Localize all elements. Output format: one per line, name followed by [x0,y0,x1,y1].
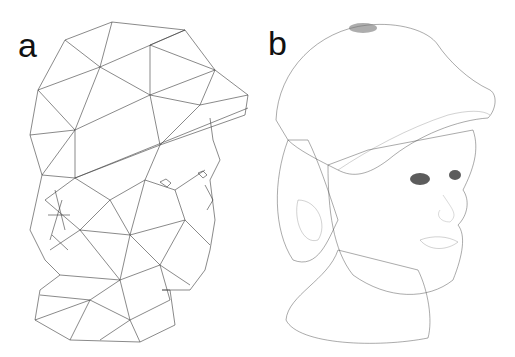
coarse-triangle-mesh-head [0,0,258,357]
fine-quad-mesh-head [258,0,515,357]
panel-b: b [258,0,515,357]
panel-a: a [0,0,258,357]
